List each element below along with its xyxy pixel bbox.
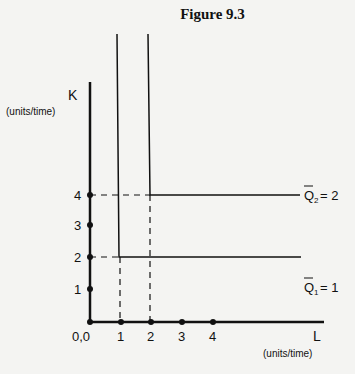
isoquant-q1 [117,34,301,257]
x-axis-units: (units/time) [263,348,312,359]
y-axis-units: (units/time) [6,106,55,117]
dashed-guides [90,195,150,322]
x-tick-4: 4 [209,329,216,344]
svg-text:= 2: = 2 [320,188,338,203]
y-tick-1: 1 [74,282,81,297]
svg-text:Q: Q [304,188,314,203]
y-tick-4: 4 [74,188,81,203]
svg-text:1: 1 [314,288,319,297]
svg-text:Q: Q [304,280,314,295]
x-tick-1: 1 [117,329,124,344]
origin-label: 0,0 [72,329,90,344]
y-axis-label: K [68,87,78,103]
svg-text:2: 2 [314,196,319,205]
q2-label: Q 2 = 2 [304,186,338,205]
isoquant-q2 [148,34,300,195]
x-tick-3: 3 [178,329,185,344]
x-tick-2: 2 [147,329,154,344]
q1-label: Q 1 = 1 [304,278,338,297]
y-tick-3: 3 [74,218,81,233]
tick-dots [87,192,216,325]
isoquant-chart: 1 2 3 4 1 2 3 4 0,0 K (units/time) L (un… [0,0,355,374]
x-axis-label: L [313,328,321,344]
svg-text:= 1: = 1 [320,280,338,295]
y-tick-2: 2 [74,250,81,265]
